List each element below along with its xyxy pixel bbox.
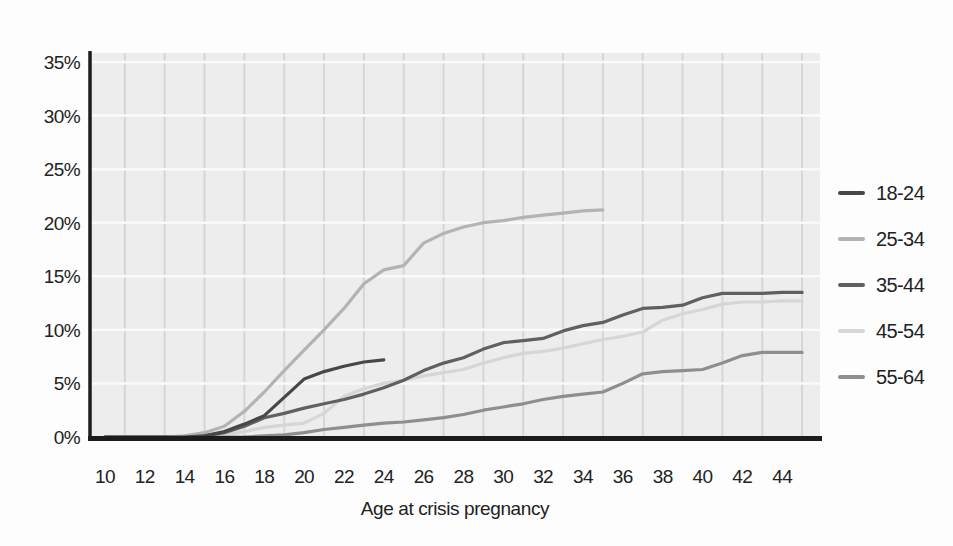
y-tick-label: 5% — [54, 373, 81, 394]
x-tick-label: 26 — [414, 466, 434, 487]
x-tick-label: 14 — [175, 466, 196, 487]
legend-label: 55-64 — [876, 366, 924, 389]
legend-label: 25-34 — [876, 228, 924, 251]
plot-background — [90, 53, 820, 437]
y-axis-tick-labels: 0%5%10%15%20%25%30%35% — [44, 52, 81, 448]
legend-swatch-icon — [838, 375, 865, 379]
chart-figure: 0%5%10%15%20%25%30%35% 10121416182022242… — [0, 0, 953, 546]
x-tick-label: 20 — [294, 466, 314, 487]
legend-label: 35-44 — [876, 274, 924, 297]
legend-item-45-54: 45-54 — [838, 321, 924, 341]
x-tick-label: 16 — [214, 466, 234, 487]
legend-swatch-icon — [838, 283, 865, 287]
legend-item-35-44: 35-44 — [838, 275, 924, 295]
legend-item-18-24: 18-24 — [838, 183, 924, 203]
y-tick-label: 0% — [54, 427, 81, 448]
x-tick-label: 24 — [374, 466, 395, 487]
y-tick-label: 35% — [44, 52, 81, 73]
legend-item-55-64: 55-64 — [838, 367, 924, 387]
legend-item-25-34: 25-34 — [838, 229, 924, 249]
y-tick-label: 30% — [44, 106, 81, 127]
y-tick-label: 25% — [44, 159, 81, 180]
x-tick-label: 30 — [493, 466, 513, 487]
y-tick-label: 15% — [44, 266, 81, 287]
legend-swatch-icon — [838, 329, 865, 333]
x-tick-label: 10 — [95, 466, 115, 487]
x-tick-label: 38 — [653, 466, 673, 487]
x-tick-label: 18 — [254, 466, 274, 487]
x-tick-label: 28 — [453, 466, 473, 487]
x-tick-label: 22 — [334, 466, 354, 487]
line-chart: 0%5%10%15%20%25%30%35% 10121416182022242… — [0, 0, 953, 546]
x-axis-title: Age at crisis pregnancy — [361, 498, 550, 519]
x-tick-label: 34 — [573, 466, 594, 487]
x-tick-label: 36 — [613, 466, 633, 487]
legend-label: 45-54 — [876, 320, 924, 343]
x-tick-label: 44 — [772, 466, 793, 487]
x-axis-tick-labels: 101214161820222426283032343638404244 — [95, 466, 793, 487]
plot-area — [90, 53, 820, 437]
legend-swatch-icon — [838, 237, 865, 241]
x-tick-label: 32 — [533, 466, 553, 487]
y-tick-label: 10% — [44, 320, 81, 341]
y-tick-label: 20% — [44, 213, 81, 234]
x-tick-label: 40 — [693, 466, 713, 487]
x-tick-label: 42 — [732, 466, 752, 487]
legend-swatch-icon — [838, 191, 865, 195]
x-tick-label: 12 — [135, 466, 155, 487]
legend-label: 18-24 — [876, 182, 924, 205]
legend: 18-2425-3435-4445-5455-64 — [838, 183, 924, 413]
